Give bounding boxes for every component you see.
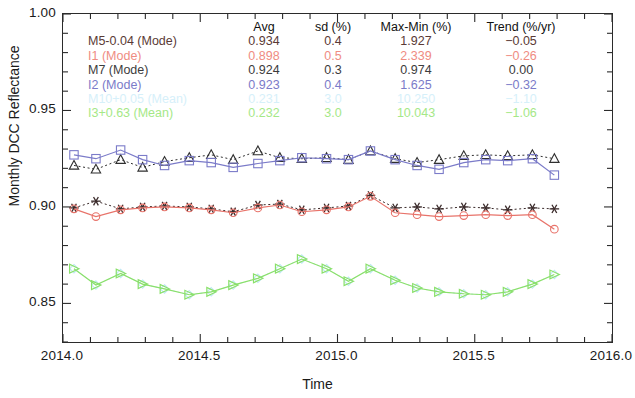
- legend-row: M10+0.05 (Mean)0.2313.010.250−1.10: [70, 92, 610, 106]
- legend-maxmin-value: 10.043: [370, 106, 462, 120]
- legend-trend-value: −0.05: [478, 34, 564, 48]
- x-tick-label: 2016.0: [576, 348, 635, 363]
- legend-row: M7 (Mode)0.9240.30.9740.00: [70, 63, 610, 77]
- legend-row: M5-0.04 (Mode)0.9340.41.927−0.05: [70, 34, 610, 48]
- legend-avg-value: 0.923: [235, 78, 293, 92]
- series-2: [70, 193, 558, 233]
- legend-rows: M5-0.04 (Mode)0.9340.41.927−0.05I1 (Mode…: [70, 34, 610, 120]
- legend-series-name: I3+0.63 (Mean): [88, 106, 173, 120]
- legend-row: I2 (Mode)0.9230.41.625−0.32: [70, 78, 610, 92]
- data-point: [550, 205, 560, 213]
- legend-trend-value: 0.00: [478, 63, 564, 77]
- legend-header-maxmin: Max-Min (%): [370, 20, 462, 34]
- y-axis-title: Monthly DCC Reflectance: [6, 26, 22, 226]
- legend-row: I3+0.63 (Mean)0.2323.010.043−1.06: [70, 106, 610, 120]
- legend-avg-value: 0.934: [235, 34, 293, 48]
- y-tick-label: 1.00: [12, 5, 56, 20]
- data-point: [551, 225, 559, 233]
- legend-table: Avg sd (%) Max-Min (%) Trend (%/yr) M5-0…: [70, 20, 610, 121]
- x-tick-label: 2014.0: [27, 348, 97, 363]
- x-tick-label: 2014.5: [164, 348, 234, 363]
- legend-row: I1 (Mode)0.8980.52.339−0.26: [70, 49, 610, 63]
- series-line: [74, 259, 554, 295]
- legend-trend-value: −0.26: [478, 49, 564, 63]
- legend-maxmin-value: 2.339: [370, 49, 462, 63]
- x-axis-title: Time: [0, 376, 635, 392]
- y-tick-label: 0.90: [12, 198, 56, 213]
- chart-figure: Monthly DCC Reflectance 0.850.900.951.00…: [0, 0, 635, 398]
- data-point: [481, 150, 490, 159]
- x-tick-label: 2015.5: [439, 348, 509, 363]
- data-point: [550, 171, 558, 179]
- data-point: [253, 146, 262, 155]
- data-point: [503, 151, 512, 160]
- legend-sd-value: 0.4: [308, 34, 358, 48]
- data-point: [91, 197, 101, 205]
- legend-sd-value: 3.0: [308, 106, 358, 120]
- legend-maxmin-value: 0.974: [370, 63, 462, 77]
- legend-series-name: I1 (Mode): [88, 49, 142, 63]
- data-point: [69, 160, 78, 169]
- y-tick-label: 0.85: [12, 294, 56, 309]
- legend-avg-value: 0.232: [235, 106, 293, 120]
- legend-trend-value: −1.06: [478, 106, 564, 120]
- legend-avg-value: 0.231: [235, 92, 293, 106]
- legend-maxmin-value: 10.250: [370, 92, 462, 106]
- y-tick-label: 0.95: [12, 101, 56, 116]
- data-point: [434, 205, 444, 213]
- x-tick-label: 2015.0: [302, 348, 372, 363]
- legend-avg-value: 0.898: [235, 49, 293, 63]
- data-point: [412, 203, 422, 211]
- legend-header-trend: Trend (%/yr): [478, 20, 564, 34]
- legend-header-row: Avg sd (%) Max-Min (%) Trend (%/yr): [70, 20, 610, 34]
- legend-header-sd: sd (%): [308, 20, 358, 34]
- legend-sd-value: 3.0: [308, 92, 358, 106]
- data-point: [503, 206, 513, 214]
- data-point: [550, 270, 559, 279]
- legend-series-name: M7 (Mode): [88, 63, 148, 77]
- legend-series-name: I2 (Mode): [88, 78, 142, 92]
- data-point: [116, 155, 125, 164]
- data-point: [459, 203, 469, 211]
- legend-sd-value: 0.3: [308, 63, 358, 77]
- series-6: [70, 255, 560, 299]
- data-point: [207, 150, 216, 159]
- legend-sd-value: 0.5: [308, 49, 358, 63]
- legend-trend-value: −0.32: [478, 78, 564, 92]
- legend-maxmin-value: 1.625: [370, 78, 462, 92]
- legend-header-avg: Avg: [235, 20, 293, 34]
- legend-series-name: M5-0.04 (Mode): [88, 34, 177, 48]
- legend-sd-value: 0.4: [308, 78, 358, 92]
- legend-trend-value: −1.10: [478, 92, 564, 106]
- data-point: [434, 155, 443, 164]
- legend-series-name: M10+0.05 (Mean): [88, 92, 187, 106]
- legend-avg-value: 0.924: [235, 63, 293, 77]
- legend-maxmin-value: 1.927: [370, 34, 462, 48]
